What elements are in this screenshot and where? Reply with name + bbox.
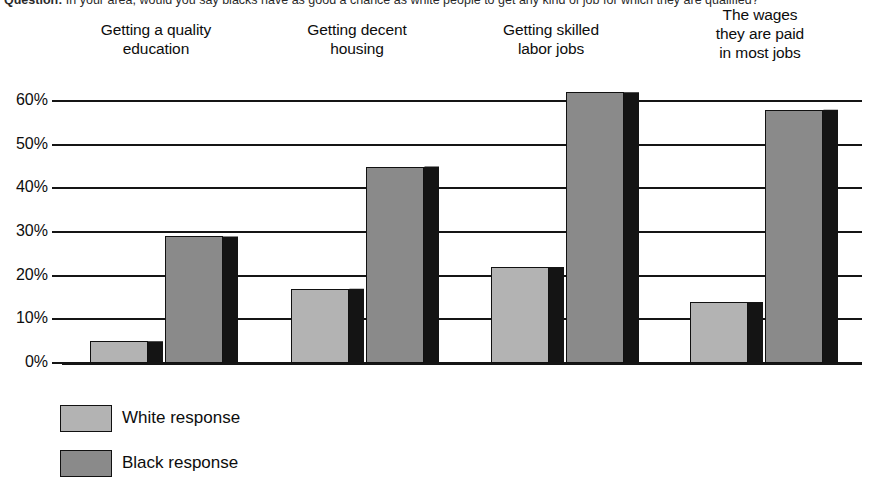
bar-front-face — [765, 110, 823, 363]
y-tick-dash-0 — [52, 362, 62, 364]
legend-swatch-white — [60, 405, 112, 432]
legend-label-white: White response — [122, 407, 240, 429]
question-label: Question: — [4, 0, 62, 7]
bar-front-face — [165, 236, 223, 363]
bar-side-face — [148, 341, 163, 363]
category-header-2-line-0: Getting skilled — [456, 20, 646, 39]
bar-side-face — [624, 92, 639, 363]
y-tick-dash-50 — [52, 144, 62, 146]
bar-front-face — [366, 167, 424, 364]
bar-side-face — [823, 110, 838, 363]
plot-area — [62, 95, 862, 369]
bar-front-face — [566, 92, 624, 363]
y-tick-dash-10 — [52, 318, 62, 320]
y-tick-label-20: 20% — [0, 267, 48, 283]
bar-group-1-series-1[interactable] — [366, 167, 424, 364]
bar-group-2-series-1[interactable] — [566, 92, 624, 363]
bar-side-face — [424, 167, 439, 364]
y-tick-label-10: 10% — [0, 310, 48, 326]
bar-side-face — [549, 267, 564, 363]
y-tick-dash-30 — [52, 231, 62, 233]
bar-side-face — [748, 302, 763, 363]
category-header-0-line-0: Getting a quality — [56, 20, 256, 39]
bar-front-face — [90, 341, 148, 363]
bar-side-face — [223, 236, 238, 363]
category-header-3-line-0: The wages — [660, 5, 860, 24]
legend-swatch-black — [60, 450, 112, 477]
bar-side-face — [349, 289, 364, 363]
category-header-1-line-1: housing — [262, 39, 452, 58]
category-header-3: The wages they are paid in most jobs — [660, 5, 860, 62]
category-header-2-line-1: labor jobs — [456, 39, 646, 58]
y-tick-dash-60 — [52, 100, 62, 102]
y-tick-label-30: 30% — [0, 223, 48, 239]
category-header-1-line-0: Getting decent — [262, 20, 452, 39]
bar-front-face — [491, 267, 549, 363]
gridline-50 — [62, 144, 862, 146]
y-tick-label-50: 50% — [0, 136, 48, 152]
bar-group-3-series-1[interactable] — [765, 110, 823, 363]
bar-group-0-series-0[interactable] — [90, 341, 148, 363]
legend-label-black: Black response — [122, 452, 238, 474]
bar-group-1-series-0[interactable] — [291, 289, 349, 363]
category-header-0: Getting a quality education — [56, 20, 256, 58]
y-tick-label-60: 60% — [0, 92, 48, 108]
category-header-1: Getting decent housing — [262, 20, 452, 58]
chart-page: Question: In your area, would you say bl… — [0, 0, 880, 503]
y-tick-dash-20 — [52, 275, 62, 277]
y-tick-label-40: 40% — [0, 179, 48, 195]
category-header-3-line-2: in most jobs — [660, 43, 860, 62]
category-header-2: Getting skilled labor jobs — [456, 20, 646, 58]
gridline-40 — [62, 187, 862, 189]
y-tick-label-0: 0% — [0, 354, 48, 370]
bar-group-2-series-0[interactable] — [491, 267, 549, 363]
y-tick-dash-40 — [52, 187, 62, 189]
bar-front-face — [690, 302, 748, 363]
bar-front-face — [291, 289, 349, 363]
gridline-60 — [62, 100, 862, 102]
bar-group-3-series-0[interactable] — [690, 302, 748, 363]
category-header-3-line-1: they are paid — [660, 24, 860, 43]
gridline-30 — [62, 231, 862, 233]
bar-group-0-series-1[interactable] — [165, 236, 223, 363]
category-header-0-line-1: education — [56, 39, 256, 58]
question-text: In your area, would you say blacks have … — [62, 0, 758, 7]
